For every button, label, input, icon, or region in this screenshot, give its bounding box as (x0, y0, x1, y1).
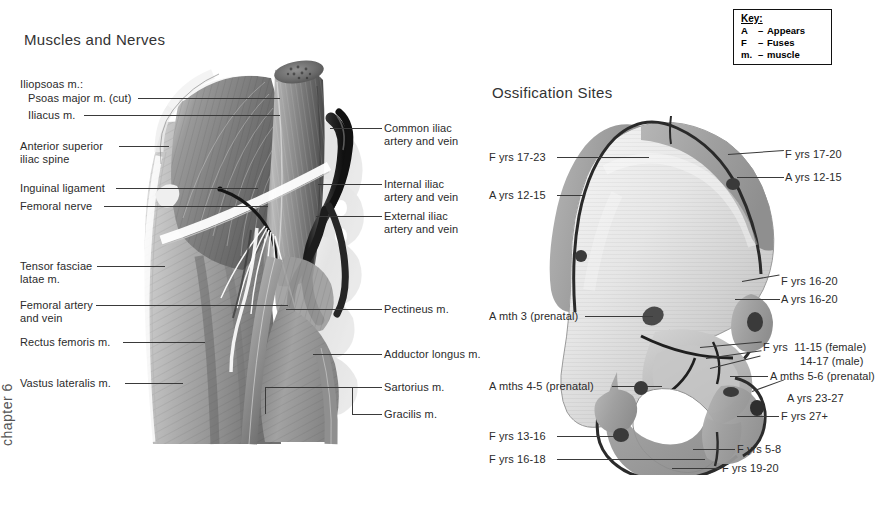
label-gracilis: Gracilis m. (384, 408, 437, 421)
leader-a-mths-5-6 (730, 376, 768, 377)
ossification-label-f-yrs-27-plus: F yrs 27+ (781, 410, 828, 423)
ossification-label-f-yrs-19-20: F yrs 19-20 (722, 462, 779, 475)
leader-a-mths-4-5 (612, 386, 662, 387)
label-femoral-artery-and-vein: Femoral artery and vein (20, 299, 93, 324)
ossification-dot-ischial-tuberosity (613, 428, 629, 442)
label-adductor-longus: Adductor longus m. (384, 348, 481, 361)
key-symbol-m: m. (741, 49, 758, 61)
label-internal-iliac-vessels: Internal iliac artery and vein (384, 178, 458, 203)
ossification-label-a-mths-5-6: A mths 5-6 (prenatal) (770, 370, 875, 383)
leader-sartorius (265, 387, 382, 388)
leader-gracilis-vertical (352, 387, 353, 414)
leader-iliacus (84, 115, 280, 116)
leader-f-yrs-16-18 (557, 459, 705, 460)
leader-a-yrs-12-15-right (737, 177, 784, 178)
key-meaning-muscle: muscle (767, 49, 800, 61)
ossification-label-a-yrs-16-20: A yrs 16-20 (781, 293, 838, 306)
label-external-iliac-vessels: External iliac artery and vein (384, 210, 458, 235)
leader-f-yrs-27-plus (737, 416, 779, 417)
leader-external-iliac (316, 216, 382, 217)
label-anterior-superior-iliac-spine: Anterior superior iliac spine (20, 140, 103, 165)
ossification-dot-crest-right (726, 178, 740, 190)
leader-f-yrs-19-20 (672, 468, 720, 469)
ossification-dot-ischium-upper (634, 381, 648, 395)
ossification-dot-crest-left (575, 250, 587, 262)
label-pectineus: Pectineus m. (384, 303, 449, 316)
leader-f-yrs-13-16 (557, 436, 623, 437)
ossification-label-f-yrs-16-20: F yrs 16-20 (781, 275, 838, 288)
label-rectus-femoris: Rectus femoris m. (20, 336, 110, 349)
label-femoral-nerve: Femoral nerve (20, 200, 92, 213)
ossification-label-a-yrs-12-15-right: A yrs 12-15 (785, 171, 842, 184)
label-vastus-lateralis: Vastus lateralis m. (20, 377, 111, 390)
ossification-label-f-yrs-13-16: F yrs 13-16 (489, 430, 546, 443)
ossification-label-f-yrs-11-15-female: F yrs 11-15 (female) (763, 341, 866, 354)
leader-f-yrs-17-23 (557, 157, 649, 158)
ossification-label-f-yrs-16-18: F yrs 16-18 (489, 453, 546, 466)
leader-pectineus (286, 309, 382, 310)
ossification-label-a-yrs-23-27: A yrs 23-27 (787, 392, 844, 405)
leader-gracilis (352, 414, 382, 415)
leader-femoral-artery (96, 305, 288, 306)
leader-inguinal-ligament (116, 188, 258, 189)
ossification-dot-pubic-symphysis (750, 400, 764, 416)
key-symbol-f: F (741, 37, 758, 49)
leader-a-yrs-12-15 (557, 195, 583, 196)
leader-psoas-major (138, 98, 280, 99)
label-sartorius: Sartorius m. (384, 381, 445, 394)
ossification-dot-posterior (747, 312, 763, 332)
chapter-label: chapter 6 (0, 356, 15, 446)
ossification-label-f-yrs-17-23: F yrs 17-23 (489, 151, 546, 164)
left-figure-title: Muscles and Nerves (24, 31, 165, 48)
leader-rectus-femoris (123, 342, 205, 343)
leader-femoral-nerve (104, 206, 268, 207)
ossification-label-a-mth-3: A mth 3 (prenatal) (489, 310, 578, 323)
label-tensor-fasciae-latae: Tensor fasciae latae m. (20, 260, 92, 285)
ossification-label-14-17-male: 14-17 (male) (800, 355, 864, 368)
key-dash-f: – (758, 37, 767, 49)
key-meaning-appears: Appears (767, 25, 805, 37)
key-dash-m: – (758, 49, 767, 61)
label-common-iliac-vessels: Common iliac artery and vein (384, 122, 458, 147)
key-meaning-fuses: Fuses (767, 37, 794, 49)
leader-asis (119, 146, 169, 147)
label-iliacus: Iliacus m. (28, 109, 75, 122)
leader-sartorius-vertical (265, 387, 266, 414)
leader-common-iliac (330, 128, 382, 129)
label-iliopsoas: Iliopsoas m.: (20, 78, 83, 91)
key-box: Key: A – Appears F – Fuses m. – muscle (733, 9, 832, 65)
key-symbol-a: A (741, 25, 758, 37)
label-inguinal-ligament: Inguinal ligament (20, 182, 105, 195)
ossification-dot-pubis (723, 387, 739, 397)
key-title: Key: (741, 13, 825, 25)
leader-f-yrs-5-8 (693, 449, 735, 450)
key-row-fuses: F – Fuses (741, 37, 825, 49)
leader-a-mth-3 (585, 316, 653, 317)
ossification-label-a-yrs-12-15: A yrs 12-15 (489, 189, 546, 202)
leader-adductor-longus (313, 354, 382, 355)
leader-tensor-fasciae-latae (97, 266, 165, 267)
page-root: Key: A – Appears F – Fuses m. – muscle M… (0, 0, 887, 511)
key-dash-a: – (758, 25, 767, 37)
leader-internal-iliac (318, 184, 382, 185)
leader-a-yrs-16-20 (735, 299, 780, 300)
key-row-muscle: m. – muscle (741, 49, 825, 61)
key-row-appears: A – Appears (741, 25, 825, 37)
label-psoas-major-cut: Psoas major m. (cut) (28, 92, 131, 105)
hip-bone-illustration (545, 110, 795, 475)
leader-vastus-lateralis (125, 383, 183, 384)
right-figure-title: Ossification Sites (492, 84, 612, 101)
ossification-label-a-mths-4-5: A mths 4-5 (prenatal) (489, 380, 594, 393)
ossification-label-f-yrs-5-8: F yrs 5-8 (737, 443, 781, 456)
ossification-label-f-yrs-17-20: F yrs 17-20 (785, 148, 842, 161)
